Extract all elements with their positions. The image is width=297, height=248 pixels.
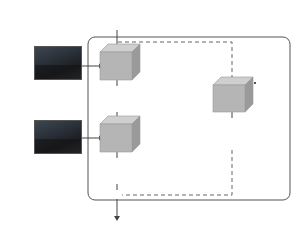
input-image-2	[34, 120, 82, 154]
input-image-1	[34, 46, 82, 80]
cube-3	[213, 77, 253, 112]
cube-2	[100, 116, 140, 152]
cube-1	[100, 44, 140, 80]
